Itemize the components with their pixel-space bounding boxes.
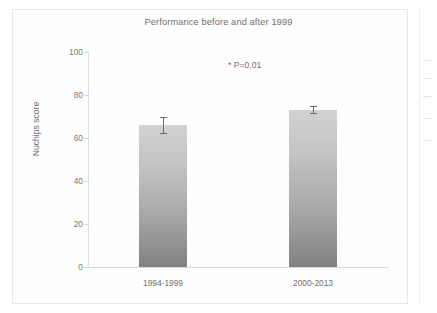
y-axis-tick-label: 80: [43, 90, 83, 100]
y-axis-tick-label: 40: [43, 176, 83, 186]
error-bar-cap-top: [160, 117, 167, 118]
error-bar: [157, 117, 169, 134]
error-bar-cap-bottom: [310, 113, 317, 114]
error-bar-cap-bottom: [160, 133, 167, 134]
edge-tick-mark: [423, 96, 431, 97]
y-axis-tick-label: 60: [43, 133, 83, 143]
y-axis-tick: [84, 267, 89, 268]
edge-tick-mark: [423, 78, 431, 79]
error-bar-cap-top: [310, 106, 317, 107]
error-bar-stem: [163, 117, 164, 134]
x-axis-tick-label: 1994-1999: [143, 278, 183, 288]
chart-figure: Performance before and after 1999 Nuchip…: [0, 0, 437, 313]
y-axis-title: Nuchips score: [31, 69, 41, 189]
page-edge-artifact: [419, 8, 431, 305]
edge-tick-mark: [423, 60, 431, 61]
y-axis-tick-label: 20: [43, 219, 83, 229]
bar: [139, 125, 187, 267]
edge-tick-mark: [423, 140, 431, 141]
x-axis-line: [88, 267, 389, 268]
significance-annotation: * P=0.01: [228, 60, 261, 70]
edge-tick-mark: [423, 118, 431, 119]
plot-area: [88, 52, 388, 267]
error-bar: [307, 106, 319, 115]
y-axis-tick-label: 100: [43, 47, 83, 57]
y-axis-tick-label: 0: [43, 262, 83, 272]
bar: [289, 110, 337, 267]
chart-title: Performance before and after 1999: [0, 17, 437, 27]
x-axis-tick-label: 2000-2013: [293, 278, 333, 288]
